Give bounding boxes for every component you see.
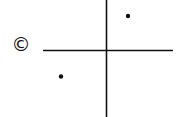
- point-quadrant-3: [59, 74, 63, 78]
- diagram-canvas: ©: [0, 0, 180, 117]
- coordinate-plane: [0, 0, 180, 117]
- point-quadrant-1: [126, 14, 130, 18]
